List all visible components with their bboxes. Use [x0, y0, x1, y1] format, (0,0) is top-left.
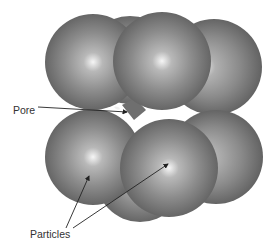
particles-label: Particles [30, 229, 70, 240]
particle-top-middle-front [113, 12, 211, 110]
pore-label: Pore [13, 105, 35, 116]
pore-glint [114, 106, 120, 110]
particle-bottom-middle-front [120, 119, 218, 217]
particle-packing-diagram [0, 0, 276, 250]
